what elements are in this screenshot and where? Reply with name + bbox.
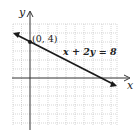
x-axis-label: x bbox=[127, 79, 134, 92]
y-axis-label: y bbox=[18, 6, 26, 19]
y-axis bbox=[27, 11, 33, 130]
graph: y x (0, 4) x + 2y = 8 bbox=[0, 0, 138, 137]
equation-label: x + 2y = 8 bbox=[62, 46, 117, 57]
point-label: (0, 4) bbox=[32, 33, 58, 44]
equation-line bbox=[13, 32, 117, 87]
arrow-right-icon bbox=[110, 81, 117, 87]
arrow-left-icon bbox=[13, 32, 20, 38]
grid bbox=[13, 24, 117, 125]
